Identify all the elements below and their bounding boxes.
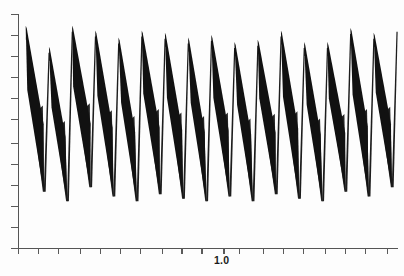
waveform-segment <box>90 36 96 187</box>
y-axis-tick-4 <box>11 164 18 165</box>
x-axis-tick-7 <box>162 248 163 254</box>
waveform-segment <box>113 43 119 196</box>
x-axis-tick-5 <box>120 248 121 254</box>
waveform-segment <box>219 113 230 197</box>
x-axis-tick-label-1: 1.0 <box>214 254 229 266</box>
y-axis-tick-7 <box>11 98 18 99</box>
y-axis-tick-9 <box>11 56 18 57</box>
waveform-segment <box>242 118 253 201</box>
x-axis-tick-4 <box>100 248 101 254</box>
waveform-segment <box>160 39 166 194</box>
x-axis-tick-18 <box>387 248 388 254</box>
y-axis-tick-0 <box>11 248 18 249</box>
y-axis-tick-2 <box>11 206 18 207</box>
x-axis-tick-2 <box>58 248 59 254</box>
x-axis-tick-8 <box>181 248 182 254</box>
x-axis-tick-14 <box>303 248 304 254</box>
y-axis-tick-1 <box>11 227 18 228</box>
waveform-segment <box>358 109 369 197</box>
waveform-segment <box>265 114 276 194</box>
waveform-segment <box>276 36 282 194</box>
waveform-segment <box>196 116 207 201</box>
waveform-segment <box>312 118 323 201</box>
waveform-segment <box>126 116 137 201</box>
y-axis-tick-6 <box>11 119 18 120</box>
x-axis-tick-13 <box>283 248 284 254</box>
waveform-segment <box>67 32 73 202</box>
waveform-segment <box>369 39 375 197</box>
waveform-segment <box>149 109 160 194</box>
x-axis-tick-3 <box>80 248 81 254</box>
x-axis-tick-17 <box>365 248 366 254</box>
x-axis-tick-15 <box>325 248 326 254</box>
waveform-segment <box>381 107 392 187</box>
waveform-segment <box>288 111 299 199</box>
waveform-segment <box>335 114 346 192</box>
waveform-segment <box>299 48 305 199</box>
x-axis-tick-16 <box>345 248 346 254</box>
waveform-segment <box>229 48 235 196</box>
oscillation-waveform <box>18 14 398 248</box>
x-axis-tick-11 <box>239 248 240 254</box>
x-axis-tick-0 <box>18 248 19 254</box>
x-axis-tick-9 <box>201 248 202 254</box>
x-axis-tick-1 <box>38 248 39 254</box>
waveform-figure: 1.0 <box>0 0 404 276</box>
waveform-segment <box>322 48 328 201</box>
x-axis-tick-12 <box>263 248 264 254</box>
waveform-segment <box>103 110 114 196</box>
waveform-segment <box>33 105 44 191</box>
y-axis-tick-8 <box>11 77 18 78</box>
waveform-segment <box>253 46 259 201</box>
waveform-segment <box>44 53 50 192</box>
y-axis-tick-10 <box>11 35 18 36</box>
waveform-segment <box>206 41 212 201</box>
y-axis-tick-5 <box>11 143 18 144</box>
waveform-segment <box>392 32 398 187</box>
waveform-segment <box>345 34 351 192</box>
waveform-segment <box>137 36 143 201</box>
waveform-segment <box>79 103 90 187</box>
x-axis-tick-6 <box>140 248 141 254</box>
y-axis-tick-11 <box>11 14 18 15</box>
y-axis-tick-3 <box>11 185 18 186</box>
waveform-segment <box>172 112 183 198</box>
plot-area <box>18 14 398 248</box>
waveform-segment <box>183 43 189 198</box>
waveform-segment <box>56 121 67 201</box>
